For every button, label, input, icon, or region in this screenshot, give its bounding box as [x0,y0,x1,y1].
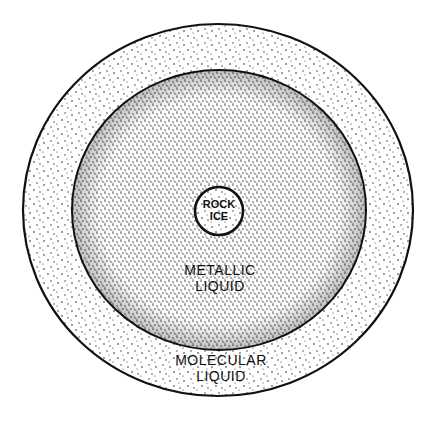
molecular-liquid-label: MOLECULAR LIQUID [175,353,267,383]
metallic-label-line-2: LIQUID [184,279,255,293]
molecular-label-line-1: MOLECULAR [175,353,267,367]
metallic-label-line-1: METALLIC [184,263,255,277]
core-label-line-2: ICE [203,211,235,222]
molecular-label-line-2: LIQUID [175,369,267,383]
core-label-line-1: ROCK [203,199,235,210]
core-label: ROCK ICE [203,199,235,222]
metallic-liquid-label: METALLIC LIQUID [184,263,255,293]
